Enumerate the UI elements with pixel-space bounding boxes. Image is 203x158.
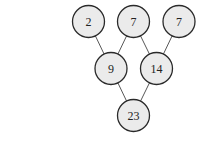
edge-line [141,36,150,54]
node-23-root: 23 [118,100,150,132]
node-label: 7 [176,15,182,29]
node-2: 2 [73,6,105,38]
edge-line [95,36,104,54]
tree-diagram: 2 7 7 9 14 23 [0,0,203,158]
node-7-middle: 7 [118,6,150,38]
node-7-right: 7 [163,6,195,38]
node-label: 14 [151,62,163,76]
edge-line [163,36,172,54]
node-label: 7 [131,15,137,29]
edge-line [118,36,127,54]
node-9: 9 [95,53,127,85]
node-14: 14 [141,53,173,85]
edge-line [141,83,150,101]
edge-line [118,83,127,101]
node-label: 23 [128,109,140,123]
node-label: 2 [86,15,92,29]
node-label: 9 [108,62,114,76]
nodes: 2 7 7 9 14 23 [73,6,196,132]
